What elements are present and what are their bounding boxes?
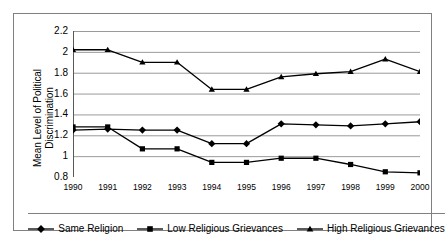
chart-figure: Mean Level of Political Discrimination S… bbox=[0, 0, 446, 244]
legend-item-high-religious-grievances[interactable]: High Religious Grievances bbox=[297, 223, 445, 235]
y-axis-tick-label: 0.8 bbox=[42, 172, 68, 182]
legend-key-marker bbox=[147, 226, 153, 232]
data-point bbox=[383, 169, 388, 174]
data-point bbox=[244, 160, 249, 165]
data-point bbox=[347, 122, 354, 129]
y-axis-tick-label: 1.2 bbox=[42, 130, 68, 140]
y-axis-tick-labels: 0.811.21.41.61.822.2 bbox=[40, 0, 68, 244]
legend-item-label: Low Religious Grievances bbox=[167, 223, 283, 235]
series-low-religious-grievances bbox=[73, 124, 420, 175]
series-line bbox=[73, 127, 420, 173]
x-axis-tick-label: 2000 bbox=[400, 182, 440, 192]
x-axis-tick-labels: 1990199119921993199419951996199719981999… bbox=[73, 182, 420, 196]
data-point bbox=[279, 156, 284, 161]
y-axis-tick-label: 1 bbox=[42, 151, 68, 161]
legend-marker-triangle-icon bbox=[297, 223, 323, 235]
legend-marker-square-icon bbox=[137, 223, 163, 235]
data-point bbox=[139, 126, 146, 133]
data-point bbox=[73, 124, 76, 129]
y-axis-tick-label: 1.6 bbox=[42, 89, 68, 99]
chart-legend: Same ReligionLow Religious GrievancesHig… bbox=[28, 213, 445, 244]
data-point bbox=[416, 118, 420, 125]
data-point bbox=[209, 160, 214, 165]
data-point bbox=[313, 156, 318, 161]
data-point bbox=[105, 124, 110, 129]
data-point bbox=[175, 146, 180, 151]
legend-item-label: High Religious Grievances bbox=[327, 223, 445, 235]
data-point bbox=[348, 162, 353, 167]
y-axis-tick-label: 2 bbox=[42, 47, 68, 57]
data-point bbox=[140, 146, 145, 151]
data-point bbox=[208, 140, 215, 147]
data-point bbox=[417, 170, 420, 175]
data-point bbox=[243, 140, 250, 147]
plot-svg bbox=[73, 31, 420, 177]
data-point bbox=[278, 120, 285, 127]
y-axis-tick-label: 1.4 bbox=[42, 109, 68, 119]
data-point bbox=[312, 121, 319, 128]
series-same-religion bbox=[73, 118, 420, 147]
data-point bbox=[382, 56, 388, 61]
y-axis-tick-label: 2.2 bbox=[42, 26, 68, 36]
y-axis-tick-label: 1.8 bbox=[42, 68, 68, 78]
series-high-religious-grievances bbox=[73, 47, 420, 92]
series-line bbox=[73, 50, 420, 90]
data-point bbox=[382, 120, 389, 127]
data-point bbox=[173, 126, 180, 133]
legend-item-low-religious-grievances[interactable]: Low Religious Grievances bbox=[137, 223, 283, 235]
plot-area bbox=[73, 31, 420, 177]
